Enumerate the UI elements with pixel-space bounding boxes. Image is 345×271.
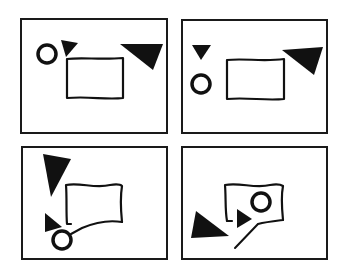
panel-bottom-right xyxy=(182,147,327,259)
small-triangle-shape xyxy=(61,40,78,57)
panel-top-right xyxy=(182,20,327,133)
circle-shape xyxy=(252,193,270,211)
connector-line xyxy=(71,221,122,234)
small-triangle-shape xyxy=(192,45,211,60)
panel-top-left xyxy=(21,19,167,133)
flag-rectangle-shape xyxy=(66,184,122,224)
panel-frame xyxy=(21,19,167,133)
circle-shape xyxy=(192,75,210,93)
circle-shape xyxy=(38,45,56,63)
panel-frame xyxy=(182,147,327,259)
small-triangle-shape xyxy=(45,213,62,232)
panel-frame xyxy=(22,147,167,259)
small-triangle-shape xyxy=(237,209,252,228)
diagram-canvas xyxy=(0,0,345,271)
flag-rectangle-shape xyxy=(225,184,283,221)
flag-rectangle-shape xyxy=(67,58,123,99)
panel-bottom-left xyxy=(22,147,167,259)
large-triangle-shape xyxy=(282,47,323,75)
circle-shape xyxy=(53,231,71,249)
large-triangle-shape xyxy=(120,44,163,70)
flag-rectangle-shape xyxy=(227,59,284,100)
large-triangle-shape xyxy=(191,211,229,238)
